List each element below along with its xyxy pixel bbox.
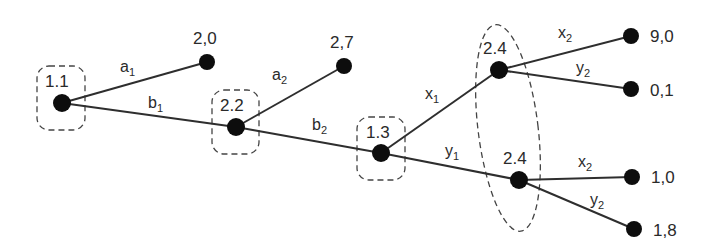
terminal-node-9-0 (623, 28, 639, 44)
edge-label-x1: x1 (425, 85, 439, 105)
terminal-node-1-8 (626, 221, 642, 237)
terminal-node-2-0 (199, 54, 215, 70)
edge-label-y2-upper: y2 (576, 59, 590, 79)
terminal-node-1-0 (624, 169, 640, 185)
edge-label-a1: a1 (120, 58, 135, 78)
edge-label-x2-upper: x2 (558, 24, 572, 44)
terminal-node-0-1 (623, 81, 639, 97)
decision-node-2-4-lower (510, 171, 528, 189)
node-label-2-4-lower: 2.4 (503, 149, 527, 168)
decision-node-1-1 (53, 94, 71, 112)
edge-label-x2-lower: x2 (578, 153, 592, 173)
edge-y2-upper (499, 70, 631, 89)
payoff-label-1-0: 1,0 (651, 168, 675, 187)
payoff-label-2-0: 2,0 (193, 29, 217, 48)
node-label-1-1: 1.1 (45, 72, 69, 91)
decision-node-2-4-upper (490, 61, 508, 79)
edge-label-y2-lower: y2 (590, 191, 604, 211)
terminal-node-2-7 (336, 58, 352, 74)
edge-x1 (381, 70, 499, 153)
decision-node-2-2 (227, 118, 245, 136)
node-label-1-3: 1.3 (366, 123, 390, 142)
info-set-2-4 (466, 21, 551, 235)
edge-label-b2: b2 (312, 116, 327, 136)
edge-label-y1: y1 (445, 142, 459, 162)
edge-b2 (236, 127, 381, 153)
decision-node-1-3 (372, 144, 390, 162)
payoff-label-1-8: 1,8 (653, 221, 677, 240)
game-tree-diagram: 1.1 2.2 1.3 2.4 2.4 2,0 2,7 9,0 0,1 1,0 … (0, 0, 711, 251)
node-label-2-4-upper: 2.4 (483, 39, 507, 58)
edge-x2-upper (499, 36, 631, 70)
edge-label-a2: a2 (272, 66, 287, 86)
edge-a2 (236, 66, 344, 127)
node-label-2-2: 2.2 (220, 96, 244, 115)
payoff-label-9-0: 9,0 (650, 27, 674, 46)
payoff-label-2-7: 2,7 (330, 33, 354, 52)
edge-x2-lower (519, 177, 632, 180)
edge-label-b1: b1 (148, 94, 163, 114)
payoff-label-0-1: 0,1 (650, 81, 674, 100)
